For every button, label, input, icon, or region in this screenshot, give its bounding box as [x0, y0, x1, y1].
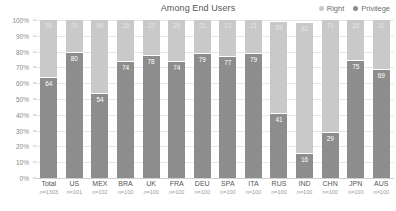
x-axis-sample-size: n=102	[92, 189, 107, 195]
x-axis: Totaln=1303USn=101MEXn=102BRAn=100UKn=10…	[36, 180, 394, 208]
bar-segment-right[interactable]: 21	[194, 20, 211, 53]
bar-segment-privilege[interactable]: 16	[296, 153, 313, 178]
x-axis-category-label: DEU	[195, 180, 210, 188]
x-axis-sample-size: n=100	[348, 189, 363, 195]
x-axis-tick: DEUn=100	[189, 180, 215, 208]
x-axis-sample-size: n=100	[195, 189, 210, 195]
x-axis-tick: Totaln=1303	[36, 180, 62, 208]
bar-value-label: 26	[122, 20, 129, 30]
x-axis-sample-size: n=100	[118, 189, 133, 195]
bar-value-label: 75	[352, 61, 359, 71]
bar-segment-right[interactable]: 20	[66, 20, 83, 52]
bar-segment-privilege[interactable]: 74	[168, 61, 185, 178]
bar-value-label: 80	[71, 53, 78, 63]
bar-column[interactable]: 3169	[369, 20, 395, 178]
bar-column[interactable]: 2179	[189, 20, 215, 178]
y-axis-tick-label: 0%	[20, 175, 29, 182]
bar-stack[interactable]: 4654	[91, 20, 108, 178]
y-axis-tick-label: 40%	[16, 111, 29, 118]
bar-column[interactable]: 2080	[62, 20, 88, 178]
x-axis-tick: MEXn=102	[87, 180, 113, 208]
bar-column[interactable]: 5841	[266, 20, 292, 178]
bar-column[interactable]: 2575	[343, 20, 369, 178]
bar-segment-privilege[interactable]: 78	[143, 55, 160, 178]
bar-stack[interactable]: 3169	[373, 20, 390, 178]
x-axis-sample-size: n=100	[271, 189, 286, 195]
bar-segment-privilege[interactable]: 54	[91, 93, 108, 178]
x-axis-category-label: BRA	[118, 180, 132, 188]
bar-value-label: 21	[250, 20, 257, 30]
bar-segment-privilege[interactable]: 69	[373, 69, 390, 178]
y-axis-tick-label: 80%	[16, 48, 29, 55]
bar-segment-right[interactable]: 26	[168, 20, 185, 61]
bar-segment-right[interactable]: 71	[322, 20, 339, 132]
bar-segment-right[interactable]: 25	[347, 20, 364, 60]
bar-stack[interactable]: 2575	[347, 20, 364, 178]
x-axis-sample-size: n=100	[246, 189, 261, 195]
bar-stack[interactable]: 7129	[322, 20, 339, 178]
x-axis-tick: SPAn=100	[215, 180, 241, 208]
bar-value-label: 74	[173, 62, 180, 72]
x-axis-tick: INDn=100	[292, 180, 318, 208]
gridline	[36, 178, 394, 179]
x-axis-category-label: AUS	[374, 180, 388, 188]
bar-column[interactable]: 2674	[164, 20, 190, 178]
legend-label-right: Right	[327, 4, 345, 13]
y-axis-tick-label: 100%	[12, 17, 29, 24]
y-axis-tick-label: 30%	[16, 127, 29, 134]
bar-segment-right[interactable]: 46	[91, 20, 108, 93]
legend-swatch-icon	[319, 6, 324, 11]
x-axis-category-label: US	[70, 180, 80, 188]
legend-item-right[interactable]: Right	[319, 4, 345, 13]
bar-stack[interactable]: 2179	[194, 20, 211, 178]
x-axis-tick: BRAn=100	[113, 180, 139, 208]
bar-segment-privilege[interactable]: 77	[219, 56, 236, 178]
x-axis-tick: UKn=100	[138, 180, 164, 208]
bar-segment-privilege[interactable]: 79	[245, 53, 262, 178]
bar-stack[interactable]: 2674	[117, 20, 134, 178]
x-axis-sample-size: n=100	[143, 189, 158, 195]
bar-segment-privilege[interactable]: 74	[117, 61, 134, 178]
x-axis-sample-size: n=100	[322, 189, 337, 195]
bar-segment-privilege[interactable]: 64	[40, 77, 57, 178]
bar-column[interactable]: 8216	[292, 20, 318, 178]
bar-column[interactable]: 3664	[36, 20, 62, 178]
bar-stack[interactable]: 8216	[296, 20, 313, 178]
x-axis-category-label: MEX	[92, 180, 107, 188]
bar-stack[interactable]: 3664	[40, 20, 57, 178]
bar-stack[interactable]: 2179	[245, 20, 262, 178]
bar-stack[interactable]: 2080	[66, 20, 83, 178]
bar-segment-right[interactable]: 82	[296, 23, 313, 153]
y-axis-tick-label: 70%	[16, 64, 29, 71]
bar-segment-right[interactable]: 23	[219, 20, 236, 56]
bar-value-label: 31	[378, 20, 385, 30]
bar-stack[interactable]: 2674	[168, 20, 185, 178]
bar-segment-privilege[interactable]: 41	[270, 113, 287, 178]
bar-value-label: 29	[327, 133, 334, 143]
bar-stack[interactable]: 2377	[219, 20, 236, 178]
bar-column[interactable]: 7129	[317, 20, 343, 178]
bar-segment-right[interactable]: 36	[40, 20, 57, 77]
bar-column[interactable]: 2674	[113, 20, 139, 178]
bar-column[interactable]: 2278	[138, 20, 164, 178]
bar-value-label: 69	[378, 70, 385, 80]
bar-column[interactable]: 4654	[87, 20, 113, 178]
bar-segment-privilege[interactable]: 29	[322, 132, 339, 178]
bar-segment-privilege[interactable]: 75	[347, 60, 364, 179]
bar-column[interactable]: 2179	[241, 20, 267, 178]
bar-column[interactable]: 2377	[215, 20, 241, 178]
bar-value-label: 23	[224, 20, 231, 30]
bar-value-label: 25	[352, 20, 359, 30]
bar-stack[interactable]: 5841	[270, 20, 287, 178]
bar-segment-privilege[interactable]: 80	[66, 52, 83, 178]
bar-segment-right[interactable]: 26	[117, 20, 134, 61]
bar-segment-right[interactable]: 31	[373, 20, 390, 69]
bar-segment-privilege[interactable]: 79	[194, 53, 211, 178]
x-axis-sample-size: n=101	[67, 189, 82, 195]
legend-item-privilege[interactable]: Privilege	[353, 4, 390, 13]
bar-segment-right[interactable]: 58	[270, 22, 287, 114]
x-axis-category-label: JPN	[349, 180, 362, 188]
bar-segment-right[interactable]: 21	[245, 20, 262, 53]
bar-segment-right[interactable]: 22	[143, 20, 160, 55]
bar-stack[interactable]: 2278	[143, 20, 160, 178]
